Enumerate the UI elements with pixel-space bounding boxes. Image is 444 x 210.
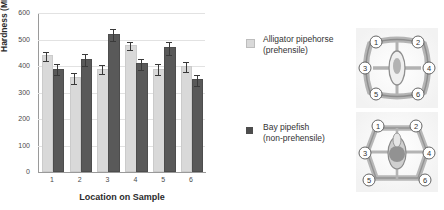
bar (153, 69, 165, 172)
bar-group (42, 13, 63, 172)
bar (164, 47, 176, 172)
bar-group (181, 13, 202, 172)
micrograph-label-1: 1 (376, 122, 380, 131)
legend-label-line2: (prehensile) (263, 45, 356, 56)
x-tick-label: 2 (66, 176, 94, 183)
error-bar-cap (183, 62, 189, 63)
error-bar-cap (194, 86, 200, 87)
error-bar-cap (71, 84, 77, 85)
error-bar-cap (194, 75, 200, 76)
bar (181, 66, 193, 172)
error-bar-cap (127, 50, 133, 51)
micrograph-label-4: 4 (427, 64, 431, 73)
legend-item-alligator-pipehorse: Alligator pipehorse (prehensile) (246, 34, 356, 56)
y-tick-label: 200 (4, 115, 30, 122)
y-tick-label: 300 (4, 89, 30, 96)
error-bar-cap (183, 72, 189, 73)
legend-item-bay-pipefish: Bay pipefish (non-prehensile) (246, 122, 356, 144)
y-tick-label: 600 (4, 9, 30, 16)
error-bar-cap (99, 74, 105, 75)
error-bar-cap (166, 55, 172, 56)
y-tick-label: 500 (4, 36, 30, 43)
error-bar-cap (82, 66, 88, 67)
bar (125, 45, 137, 172)
legend-label-line1: Bay pipefish (263, 122, 356, 133)
error-bar-cap (71, 73, 77, 74)
bar (136, 63, 148, 172)
error-bar-cap (155, 75, 161, 76)
micrograph-label-3: 3 (363, 64, 367, 73)
x-axis-label: Location on Sample (38, 192, 206, 202)
micrograph-label-5: 5 (374, 90, 378, 99)
legend-swatch-dark (246, 127, 253, 134)
bar (192, 79, 204, 172)
error-bar-cap (127, 42, 133, 43)
figure-root: Hardness (MPa) 0100200300400500600 12345… (0, 0, 444, 210)
y-tick-label: 0 (4, 168, 30, 175)
error-bar-cap (99, 65, 105, 66)
alligator-pipehorse-cross-section: 1 2 3 4 5 6 (356, 28, 438, 108)
micrograph-label-6: 6 (416, 90, 420, 99)
bar (53, 69, 65, 172)
micrograph-label-6: 6 (423, 176, 427, 185)
bar-group (125, 13, 146, 172)
x-tick-label: 5 (149, 176, 177, 183)
x-tick-label: 1 (38, 176, 66, 183)
error-bar-cap (54, 64, 60, 65)
micrograph-label-5: 5 (367, 176, 371, 185)
micrograph-label-1: 1 (374, 38, 378, 47)
micrograph-label-4: 4 (427, 149, 431, 158)
chart-legend: Alligator pipehorse (prehensile) Bay pip… (246, 34, 356, 210)
error-bar-cap (43, 52, 49, 53)
bar (81, 59, 93, 172)
bar (42, 55, 54, 172)
bar-chart: Hardness (MPa) 0100200300400500600 12345… (0, 0, 212, 210)
error-bar-cap (166, 42, 172, 43)
micrograph-label-2: 2 (416, 38, 420, 47)
error-bar-cap (54, 75, 60, 76)
error-bar-cap (110, 41, 116, 42)
error-bar-cap (82, 54, 88, 55)
x-axis-line (38, 172, 206, 173)
y-tick-label: 100 (4, 142, 30, 149)
legend-label-line1: Alligator pipehorse (263, 34, 356, 45)
error-bar-cap (110, 29, 116, 30)
bay-pipefish-cross-section: 1 2 3 4 5 6 (356, 112, 438, 192)
micrograph-label-3: 3 (363, 149, 367, 158)
bar-group (153, 13, 174, 172)
error-bar-cap (138, 59, 144, 60)
bar (70, 77, 82, 172)
bar (108, 34, 120, 172)
plot-area (38, 13, 205, 172)
bar-group (97, 13, 118, 172)
error-bar-cap (155, 64, 161, 65)
x-tick-label: 6 (177, 176, 205, 183)
x-tick-label: 4 (122, 176, 150, 183)
bar-group (70, 13, 91, 172)
y-tick-label: 400 (4, 62, 30, 69)
error-bar-cap (138, 70, 144, 71)
bar (97, 69, 109, 172)
x-tick-label: 3 (94, 176, 122, 183)
y-axis-label: Hardness (MPa) (0, 0, 9, 52)
legend-swatch-light (246, 39, 255, 48)
error-bar-cap (43, 61, 49, 62)
legend-label-line2: (non-prehensile) (263, 133, 356, 144)
micrograph-label-2: 2 (414, 122, 418, 131)
